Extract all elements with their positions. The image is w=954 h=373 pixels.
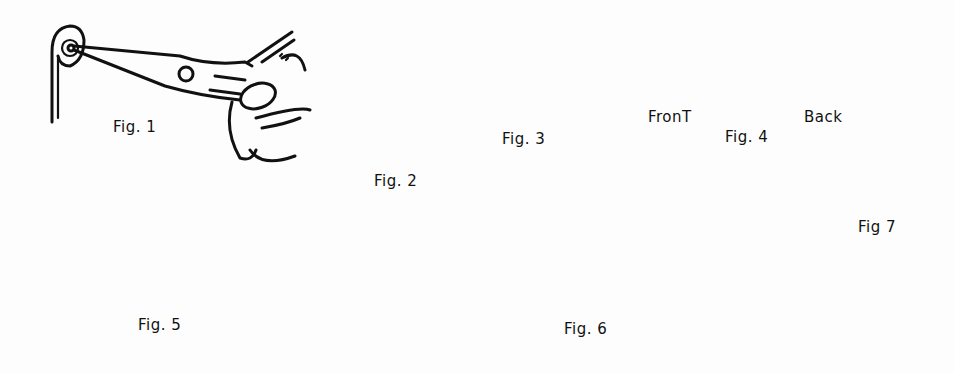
fig4-label: Fig. 4 bbox=[725, 128, 768, 146]
fig5-label: Fig. 5 bbox=[138, 316, 181, 334]
fig4-back-label: Back bbox=[804, 108, 842, 126]
fig2-label: Fig. 2 bbox=[374, 172, 417, 190]
fig4-front-label: FronT bbox=[648, 108, 692, 126]
fig1-pliers-drawing bbox=[52, 26, 310, 161]
fig1-label: Fig. 1 bbox=[113, 118, 156, 136]
craft-illustration: Fig. 1 Fig. 2 Fig. 3 FronT Back Fig. 4 F… bbox=[0, 0, 954, 373]
fig7-label: Fig 7 bbox=[858, 218, 896, 236]
fig6-label: Fig. 6 bbox=[564, 320, 607, 338]
fig3-label: Fig. 3 bbox=[502, 130, 545, 148]
